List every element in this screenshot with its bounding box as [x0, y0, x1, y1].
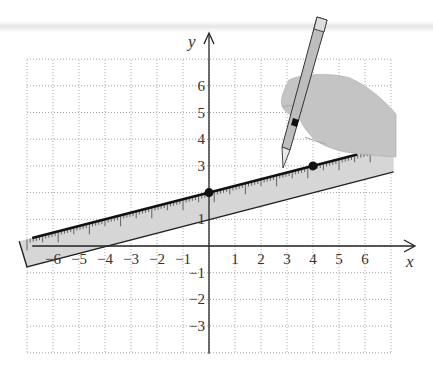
x-tick-label: 1 — [231, 251, 239, 267]
ruler — [19, 145, 393, 267]
coordinate-plane-figure: −6−5−4−3−2−1123456 65431−1−2−3 x y — [0, 0, 433, 367]
x-tick-label: 5 — [335, 251, 343, 267]
x-tick-label: 2 — [257, 251, 265, 267]
x-tick-label: −6 — [45, 251, 61, 267]
x-tick-label: −4 — [97, 251, 113, 267]
y-tick-label: 3 — [198, 158, 206, 174]
y-tick-label: 6 — [198, 78, 206, 94]
plotted-point — [205, 188, 214, 197]
x-tick-label: 6 — [361, 251, 369, 267]
x-tick-labels: −6−5−4−3−2−1123456 — [45, 251, 369, 267]
y-axis-label: y — [186, 32, 196, 51]
x-tick-label: −2 — [149, 251, 165, 267]
pencil-tip — [282, 147, 290, 168]
x-tick-label: −3 — [123, 251, 139, 267]
y-tick-label: 4 — [198, 131, 206, 147]
x-tick-label: 4 — [309, 251, 317, 267]
y-tick-label: −2 — [189, 291, 205, 307]
plotted-point — [309, 161, 318, 170]
x-tick-label: −5 — [71, 251, 87, 267]
ruler-body — [19, 145, 393, 267]
x-tick-label: 3 — [283, 251, 291, 267]
y-tick-label: −3 — [189, 318, 205, 334]
x-axis-label: x — [405, 252, 414, 271]
y-tick-label: 1 — [198, 211, 206, 227]
y-tick-label: 5 — [198, 105, 206, 121]
y-tick-label: −1 — [189, 265, 205, 281]
graphed-line — [32, 155, 357, 238]
